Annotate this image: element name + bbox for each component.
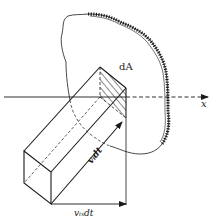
label-dA: dA	[119, 62, 133, 72]
label-x-axis: x	[201, 99, 207, 109]
flux-diagram	[0, 0, 220, 223]
label-x-displacement: vᵢₓdt	[74, 209, 93, 218]
velocity-vector	[51, 122, 122, 204]
